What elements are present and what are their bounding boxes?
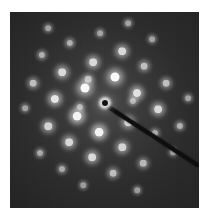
diffraction-spot [81, 84, 90, 93]
diffraction-spot [30, 80, 37, 87]
diffraction-spot [134, 187, 140, 193]
diffraction-spot [141, 63, 148, 70]
diffraction-spot [85, 76, 92, 83]
diffraction-spot [73, 112, 82, 121]
diffraction-spot [58, 68, 66, 76]
diffraction-pattern-image [10, 12, 199, 208]
diffraction-spot [89, 58, 97, 66]
diffraction-spot [95, 128, 104, 137]
diffraction-spot [88, 153, 96, 161]
diffraction-spot [45, 25, 51, 31]
diffraction-spot [185, 95, 191, 101]
diffraction-spot [44, 122, 52, 130]
diffraction-spot [51, 95, 59, 103]
diffraction-spot [118, 143, 126, 151]
diffraction-spot [133, 89, 141, 97]
diffraction-spot [140, 160, 147, 167]
diffraction-spot [67, 40, 73, 46]
beam-stop [106, 104, 199, 167]
diffraction-spot [163, 80, 170, 87]
diffraction-spot [80, 182, 86, 188]
diffraction-spot [22, 105, 28, 111]
diffraction-spot [154, 105, 162, 113]
diffraction-spot [77, 104, 83, 110]
diffraction-spot [97, 30, 103, 36]
diffraction-spot [118, 47, 126, 55]
diffraction-spot [149, 36, 155, 42]
diffraction-spot [111, 73, 120, 82]
diffraction-spot [130, 98, 136, 104]
diffraction-spot [125, 20, 131, 26]
diffraction-spot [37, 150, 43, 156]
diffraction-spot [39, 52, 45, 58]
diffraction-spot [65, 138, 73, 146]
diffraction-spot [59, 166, 65, 172]
diffraction-spot [177, 123, 183, 129]
central-beam-spot [102, 100, 108, 106]
diffraction-spot [110, 170, 117, 177]
